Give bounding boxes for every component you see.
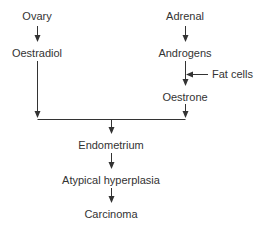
node-oestradiol: Oestradiol <box>12 47 62 59</box>
node-oestrone: Oestrone <box>162 91 207 103</box>
arrowhead-icon <box>183 79 189 86</box>
node-ovary: Ovary <box>22 10 51 22</box>
arrowhead-icon <box>183 111 189 118</box>
node-androgens: Androgens <box>158 47 211 59</box>
arrowhead-icon <box>109 127 115 134</box>
arrowhead-icon <box>183 35 189 42</box>
node-adrenal: Adrenal <box>166 10 204 22</box>
flow-arrows <box>0 0 267 227</box>
node-fat-cells: Fat cells <box>212 68 253 80</box>
node-endometrium: Endometrium <box>78 139 143 151</box>
arrowhead-icon <box>35 35 41 42</box>
node-carcinoma: Carcinoma <box>84 208 137 220</box>
arrowhead-icon <box>109 196 115 203</box>
arrowhead-icon <box>186 72 193 78</box>
arrowhead-icon <box>109 162 115 169</box>
node-atypical-hyperplasia: Atypical hyperplasia <box>62 174 160 186</box>
arrowhead-icon <box>35 111 41 118</box>
